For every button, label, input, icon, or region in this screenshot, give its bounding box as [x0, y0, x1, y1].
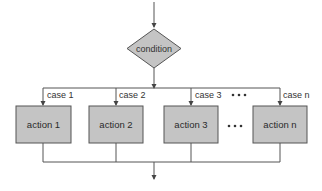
case-label-n: case n — [283, 90, 310, 100]
ellipsis-middle — [228, 125, 243, 128]
decision-node: condition — [127, 29, 181, 68]
case-label-1: case 1 — [47, 90, 74, 100]
ellipsis-top — [232, 94, 247, 97]
action-label-1: action 1 — [27, 119, 60, 130]
case-label-2: case 2 — [119, 90, 146, 100]
action-box-2: action 2 — [89, 106, 143, 143]
action-box-3: action 3 — [164, 106, 218, 143]
action-label-2: action 2 — [99, 119, 132, 130]
exit-arrowhead-icon — [152, 175, 157, 180]
decision-label: condition — [136, 44, 172, 54]
action-label-n: action n — [263, 119, 296, 130]
switch-flowchart: condition case 1 case 2 case 3 case n ac… — [0, 0, 322, 191]
action-label-3: action 3 — [174, 119, 207, 130]
action-box-1: action 1 — [16, 106, 71, 143]
merge-drops — [43, 143, 280, 162]
entry-arrowhead-icon — [152, 23, 157, 28]
case-drops — [41, 88, 283, 106]
case-label-3: case 3 — [195, 90, 222, 100]
action-box-n: action n — [253, 106, 307, 143]
